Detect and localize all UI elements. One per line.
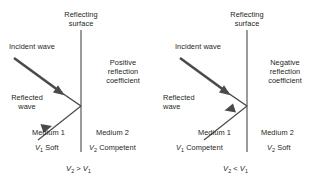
medium-1-velocity-subscript: 1 [181,147,184,153]
reflection-coefficient-label: Positive reflection coefficient [94,58,152,86]
inequality-right-subscript: 1 [88,168,91,174]
reflected-wave-label-line1: Reflected [163,93,195,102]
reflection-coefficient-line3: coefficient [268,76,302,85]
reflection-coefficient-line2: reflection [108,67,139,76]
reflected-wave-label-line2: wave [163,102,180,111]
reflecting-surface-label: Reflecting surface [36,10,126,28]
reflecting-surface-label-line1: Reflecting [230,10,263,19]
medium-1-name: Medium 1 [198,128,231,137]
medium-1-name: Medium 1 [32,128,65,137]
inequality-operator: < [233,164,237,173]
medium-2-velocity: V2 Soft [267,143,291,152]
inequality-right-subscript: 1 [245,168,248,174]
reflecting-surface-label: Reflecting surface [202,10,292,28]
medium-2-name: Medium 2 [261,128,294,137]
medium-1-velocity-subscript: 1 [40,147,43,153]
reflection-coefficient-line1: Negative [270,58,300,67]
medium-1-velocity: V1 Soft [35,143,59,152]
medium-2-velocity-subscript: 2 [272,147,275,153]
reflected-wave-arrowhead [225,104,237,113]
reflected-wave-label-line1: Reflected [11,93,43,102]
diagram-panel-positive-reflection: Reflecting surface Incident wave Reflect… [0,0,157,183]
medium-2-name: Medium 2 [96,128,129,137]
reflecting-surface-label-line1: Reflecting [64,10,97,19]
velocity-inequality: V2 < V1 [157,164,314,173]
incident-wave-ray-thick [14,58,62,93]
diagram-panel-negative-reflection: Reflecting surface Incident wave Reflect… [157,0,314,183]
inequality-left-subscript: 2 [228,168,231,174]
incident-wave-label: Incident wave [175,42,221,51]
incident-wave-ray-thick [180,58,228,93]
reflection-coefficient-line1: Positive [110,58,136,67]
medium-1-velocity: V1 Competent [176,143,223,152]
medium-1-property: Competent [186,143,223,152]
medium-2-velocity-subscript: 2 [94,147,97,153]
inequality-operator: > [76,164,80,173]
incident-wave-ray-thin [62,93,81,106]
reflecting-surface-label-line2: surface [235,19,260,28]
reflection-coefficient-line2: reflection [270,67,301,76]
medium-2-velocity: V2 Competent [89,143,136,152]
medium-2-property: Soft [277,143,290,152]
reflected-wave-label: Reflected wave [163,93,209,111]
reflection-coefficient-label: Negative reflection coefficient [256,58,314,86]
medium-1-property: Soft [45,143,58,152]
reflection-coefficient-line3: coefficient [106,76,140,85]
medium-2-property: Competent [99,143,136,152]
inequality-left-subscript: 2 [71,168,74,174]
reflecting-surface-label-line2: surface [69,19,94,28]
velocity-inequality: V2 > V1 [0,164,157,173]
incident-wave-label: Incident wave [9,42,55,51]
incident-wave-ray-thin [228,93,247,106]
reflected-wave-label-line2: wave [18,102,35,111]
reflected-wave-label: Reflected wave [4,93,50,111]
